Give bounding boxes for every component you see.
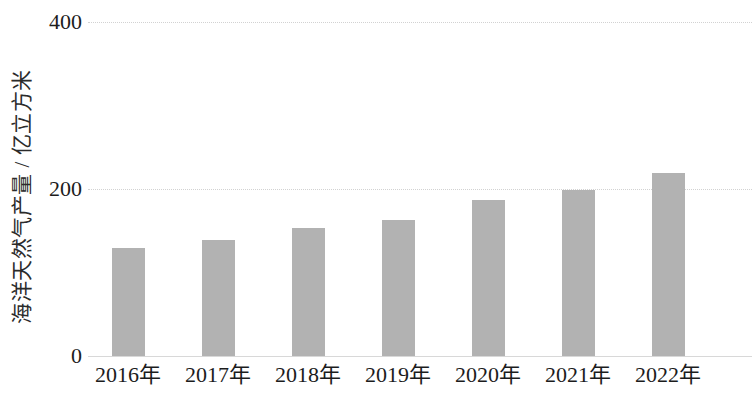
y-tick-label-200: 200 (10, 178, 82, 200)
x-tick-label: 2022年 (613, 362, 723, 388)
y-tick-label-0: 0 (10, 345, 82, 367)
plot-area: 2016年2017年2018年2019年2020年2021年2022年 (88, 0, 752, 393)
y-tick-label-400: 400 (10, 11, 82, 33)
x-axis-tick-labels: 2016年2017年2018年2019年2020年2021年2022年 (88, 0, 752, 393)
y-axis-tick-labels: 400 200 0 (0, 0, 82, 393)
bar-chart: 海洋天然气产量 / 亿立方米 400 200 0 2016年2017年2018年… (0, 0, 752, 393)
